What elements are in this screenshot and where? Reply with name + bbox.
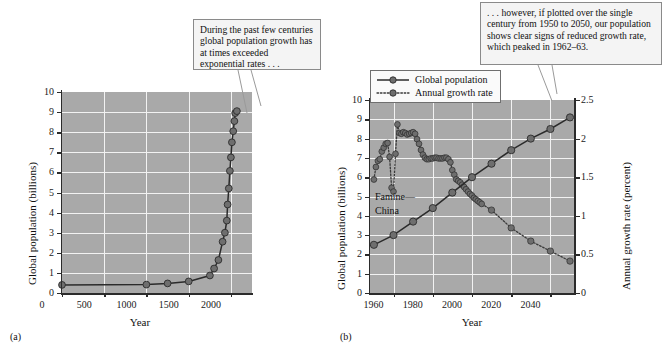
x-tick-label: 2000 — [432, 300, 472, 310]
y-tick-label: 8 — [30, 127, 54, 137]
y-tick — [57, 172, 61, 173]
y-tick-label-right: 1 — [581, 211, 607, 221]
y-tick-right — [576, 254, 580, 255]
panel-b-right-y-axis — [574, 98, 576, 295]
y-tick — [57, 112, 61, 113]
x-tick-label: 2020 — [471, 300, 511, 310]
y-tick — [57, 293, 61, 294]
x-tick — [231, 293, 232, 297]
panel-a-callout-leader — [193, 69, 283, 119]
x-tick-label: 1980 — [393, 300, 433, 310]
x-tick — [550, 293, 551, 297]
y-tick-left — [365, 235, 369, 236]
panel-b-legend[interactable]: Global population Annual growth rate — [370, 70, 501, 103]
y-tick-label: 7 — [30, 147, 54, 157]
solid-line-marker-icon — [376, 75, 410, 85]
y-tick-label: 0 — [30, 288, 54, 298]
x-tick-label: 1960 — [354, 300, 394, 310]
y-tick-left — [365, 139, 369, 140]
y-tick-left — [365, 100, 369, 101]
y-tick-label-left: 10 — [338, 95, 362, 105]
panel-b-left-y-axis-title: Global population (billions) — [335, 167, 347, 290]
x-tick-label: 1500 — [149, 300, 189, 310]
y-tick — [57, 152, 61, 153]
y-tick-left — [365, 119, 369, 120]
y-tick-right — [576, 216, 580, 217]
panel-b: Famine— China 10 9 8 7 6 5 4 3 2 1 0 2.5… — [332, 0, 665, 352]
y-tick-label-right: 1.5 — [581, 172, 607, 182]
y-tick — [57, 132, 61, 133]
y-tick-left — [365, 216, 369, 217]
x-tick — [394, 293, 395, 297]
panel-a-y-axis — [61, 90, 63, 295]
x-tick-label: 1000 — [106, 300, 146, 310]
y-tick — [57, 193, 61, 194]
legend-item-global-population[interactable]: Global population — [376, 74, 493, 87]
famine-annotation-line1: Famine— — [375, 191, 415, 203]
y-tick-label-right: 2 — [581, 134, 607, 144]
y-tick-right — [576, 139, 580, 140]
panel-a: 10 9 8 7 6 5 4 3 2 1 0 0 500 1000 1500 2… — [0, 0, 332, 352]
y-tick-label-right: 0 — [581, 288, 607, 298]
panel-a-population-series — [62, 92, 252, 293]
x-tick-label: 500 — [64, 300, 104, 310]
y-tick-label: 10 — [30, 87, 54, 97]
panel-b-callout: . . . however, if plotted over the singl… — [480, 2, 662, 65]
y-tick-label-left: 9 — [338, 114, 362, 124]
y-tick — [57, 213, 61, 214]
y-tick — [57, 92, 61, 93]
panel-a-letter: (a) — [10, 331, 21, 342]
x-tick — [104, 293, 105, 297]
x-tick — [62, 293, 63, 297]
panel-b-x-axis-title: Year — [462, 316, 482, 328]
y-tick-left — [365, 274, 369, 275]
x-tick-label: 0 — [22, 300, 62, 310]
y-tick-label-left: 8 — [338, 134, 362, 144]
y-tick-label-right: 0.5 — [581, 249, 607, 259]
legend-item-annual-growth-rate[interactable]: Annual growth rate — [376, 87, 493, 100]
y-tick-label: 9 — [30, 107, 54, 117]
x-tick — [146, 293, 147, 297]
y-tick-label-left: 7 — [338, 153, 362, 163]
famine-annotation-line2: China — [375, 205, 399, 217]
x-tick — [472, 293, 473, 297]
panel-b-letter: (b) — [340, 331, 352, 342]
x-tick — [433, 293, 434, 297]
y-tick-right — [576, 177, 580, 178]
y-tick-left — [365, 254, 369, 255]
panel-a-callout: During the past few centuries global pop… — [193, 19, 321, 70]
y-tick — [57, 233, 61, 234]
y-tick-left — [365, 197, 369, 198]
y-tick-right — [576, 293, 580, 294]
x-tick-label: 2000 — [191, 300, 231, 310]
panel-a-x-axis-title: Year — [130, 316, 150, 328]
x-tick — [189, 293, 190, 297]
panel-b-left-y-axis — [369, 98, 371, 295]
y-tick — [57, 253, 61, 254]
panel-a-y-axis-title: Global population (billions) — [26, 162, 38, 285]
panel-a-x-axis — [61, 293, 253, 295]
y-tick-left — [365, 158, 369, 159]
x-tick-label: 2040 — [510, 300, 550, 310]
y-tick-left — [365, 293, 369, 294]
panel-b-right-y-axis-title: Annual growth rate (percent) — [620, 162, 632, 290]
legend-label: Global population — [415, 74, 488, 87]
dotted-line-marker-icon — [376, 88, 410, 98]
legend-label: Annual growth rate — [415, 87, 493, 100]
y-tick — [57, 273, 61, 274]
x-tick — [511, 293, 512, 297]
y-tick-left — [365, 177, 369, 178]
